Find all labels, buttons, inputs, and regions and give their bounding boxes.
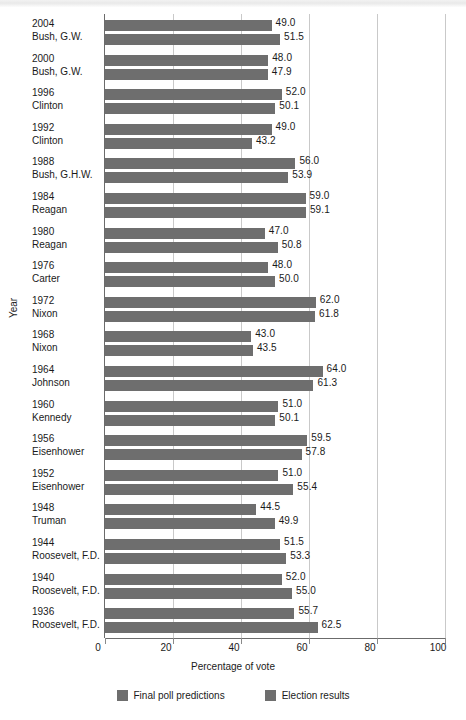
category-label: 2004Bush, G.W. xyxy=(32,17,128,43)
legend-swatch-icon xyxy=(117,690,128,701)
bar-poll[interactable] xyxy=(105,262,268,273)
category-president: Roosevelt, F.D. xyxy=(32,549,128,562)
bar-poll[interactable] xyxy=(105,55,268,66)
bar-result[interactable] xyxy=(105,553,286,564)
x-axis-line xyxy=(105,638,446,639)
bar-group: 48.050.0 xyxy=(105,262,445,289)
bar-row-result: 50.8 xyxy=(105,242,445,253)
x-tick-label-80: 80 xyxy=(364,642,375,654)
bar-group: 55.762.5 xyxy=(105,608,445,635)
category-president: Truman xyxy=(32,514,128,527)
bar-row-result: 50.0 xyxy=(105,276,445,287)
bar-row-result: 53.9 xyxy=(105,172,445,183)
bar-row-poll: 51.0 xyxy=(105,470,445,481)
bar-row-poll: 48.0 xyxy=(105,262,445,273)
category-year: 1992 xyxy=(32,121,128,134)
bar-poll[interactable] xyxy=(105,539,280,550)
x-axis-title: Percentage of vote xyxy=(0,661,466,672)
bar-result[interactable] xyxy=(105,484,293,495)
category-president: Bush, G.W. xyxy=(32,65,128,78)
bar-result[interactable] xyxy=(105,34,280,45)
category-year: 1956 xyxy=(32,432,128,445)
bar-row-poll: 49.0 xyxy=(105,20,445,31)
bar-group: 47.050.8 xyxy=(105,228,445,255)
bar-value-label: 62.0 xyxy=(320,294,340,305)
bar-poll[interactable] xyxy=(105,89,282,100)
bar-row-result: 61.8 xyxy=(105,311,445,322)
bar-poll[interactable] xyxy=(105,608,294,619)
bar-row-poll: 59.5 xyxy=(105,435,445,446)
bar-row-poll: 44.5 xyxy=(105,504,445,515)
category-year: 1960 xyxy=(32,398,128,411)
bar-result[interactable] xyxy=(105,380,313,391)
bar-group: 49.051.5 xyxy=(105,20,445,47)
bar-row-poll: 47.0 xyxy=(105,228,445,239)
category-label: 1956Eisenhower xyxy=(32,432,128,458)
category-president: Roosevelt, F.D. xyxy=(32,584,128,597)
bar-poll[interactable] xyxy=(105,401,278,412)
bar-row-result: 62.5 xyxy=(105,622,445,633)
bar-value-label: 52.0 xyxy=(286,571,306,582)
bar-poll[interactable] xyxy=(105,158,295,169)
bar-value-label: 49.9 xyxy=(279,515,299,526)
bar-value-label: 53.9 xyxy=(292,169,312,180)
bar-row-result: 47.9 xyxy=(105,69,445,80)
bar-result[interactable] xyxy=(105,588,292,599)
bar-poll[interactable] xyxy=(105,366,323,377)
category-label: 1996Clinton xyxy=(32,86,128,112)
category-president: Eisenhower xyxy=(32,480,128,493)
legend-swatch-icon xyxy=(265,690,276,701)
bar-result[interactable] xyxy=(105,276,275,287)
bar-poll[interactable] xyxy=(105,435,307,446)
bar-row-result: 57.8 xyxy=(105,449,445,460)
bar-value-label: 43.0 xyxy=(255,328,275,339)
x-tick-label-20: 20 xyxy=(160,642,171,654)
bar-group: 59.059.1 xyxy=(105,193,445,220)
bar-row-result: 53.3 xyxy=(105,553,445,564)
bar-result[interactable] xyxy=(105,242,278,253)
x-tick-label-0: 0 xyxy=(95,642,101,654)
category-label: 1984Reagan xyxy=(32,190,128,216)
legend-item[interactable]: Election results xyxy=(265,690,350,701)
category-label: 1940Roosevelt, F.D. xyxy=(32,571,128,597)
bar-row-poll: 52.0 xyxy=(105,89,445,100)
category-year: 1936 xyxy=(32,605,128,618)
bar-poll[interactable] xyxy=(105,228,265,239)
bar-poll[interactable] xyxy=(105,574,282,585)
x-tick-40 xyxy=(241,638,242,644)
bar-value-label: 55.4 xyxy=(297,481,317,492)
x-tick-label-100: 100 xyxy=(430,642,447,654)
legend-item[interactable]: Final poll predictions xyxy=(117,690,225,701)
bar-result[interactable] xyxy=(105,449,302,460)
bar-result[interactable] xyxy=(105,518,275,529)
category-president: Reagan xyxy=(32,203,128,216)
bar-result[interactable] xyxy=(105,207,306,218)
bar-result[interactable] xyxy=(105,69,268,80)
bar-value-label: 49.0 xyxy=(276,121,296,132)
bar-value-label: 50.1 xyxy=(279,412,299,423)
bar-result[interactable] xyxy=(105,103,275,114)
x-tick-label-60: 60 xyxy=(296,642,307,654)
bar-value-label: 51.0 xyxy=(282,467,302,478)
bar-result[interactable] xyxy=(105,172,288,183)
bar-row-poll: 43.0 xyxy=(105,331,445,342)
x-tick-60 xyxy=(309,638,310,644)
bar-row-poll: 51.0 xyxy=(105,401,445,412)
bar-poll[interactable] xyxy=(105,193,306,204)
category-year: 1952 xyxy=(32,467,128,480)
bar-poll[interactable] xyxy=(105,20,272,31)
bar-poll[interactable] xyxy=(105,124,272,135)
legend-label: Final poll predictions xyxy=(134,690,225,701)
bar-result[interactable] xyxy=(105,311,315,322)
bar-value-label: 53.3 xyxy=(290,550,310,561)
bar-result[interactable] xyxy=(105,622,318,633)
category-year: 1976 xyxy=(32,259,128,272)
bar-poll[interactable] xyxy=(105,297,316,308)
legend-label: Election results xyxy=(282,690,350,701)
category-year: 1964 xyxy=(32,363,128,376)
bar-row-poll: 59.0 xyxy=(105,193,445,204)
bar-value-label: 64.0 xyxy=(327,363,347,374)
bar-result[interactable] xyxy=(105,415,275,426)
category-label: 1948Truman xyxy=(32,501,128,527)
bar-poll[interactable] xyxy=(105,470,278,481)
